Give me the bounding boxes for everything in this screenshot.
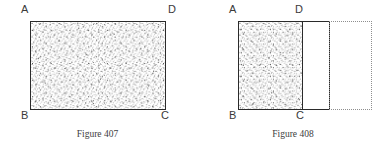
figure-407-vertex-b: B (21, 110, 28, 121)
figure-407-vertex-a: A (21, 4, 28, 15)
figure-408-vertex-c: C (296, 110, 304, 121)
figure-407-vertex-c: C (161, 110, 169, 121)
figure-408-empty-rectangle (302, 21, 330, 110)
figure-408-shaded-rectangle (238, 21, 303, 110)
figure-407-shaded-rectangle (30, 21, 166, 110)
figure-408: A D B C Figure 408 (195, 0, 391, 154)
figure-408-caption: Figure 408 (195, 128, 391, 140)
figure-407: A D B C Figure 407 (0, 0, 195, 154)
figure-408-vertex-b: B (229, 110, 236, 121)
figure-408-vertex-a: A (229, 4, 236, 15)
figure-408-vertex-d: D (295, 4, 303, 15)
figure-407-caption: Figure 407 (0, 128, 195, 140)
figure-page: A D B C Figure 407 (0, 0, 391, 154)
figure-408-dotted-extension-rectangle (329, 21, 372, 110)
stipple-fill-407 (31, 22, 165, 109)
stipple-fill-408 (239, 22, 302, 109)
figure-407-vertex-d: D (168, 4, 176, 15)
